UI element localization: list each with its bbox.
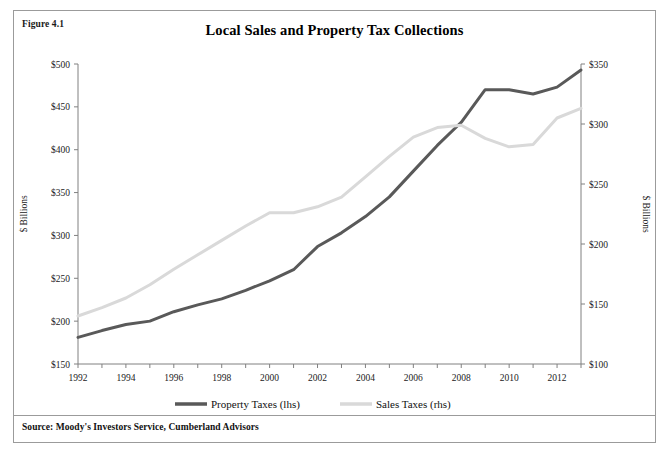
right-axis-title: $ Billions [641, 195, 651, 233]
x-axis-tick-label: 2006 [404, 373, 423, 383]
x-axis-tick-label: 2004 [356, 373, 375, 383]
left-axis-tick-label: $400 [51, 145, 70, 155]
left-axis-tick-label: $300 [51, 231, 70, 241]
right-axis-tick-label: $350 [589, 60, 608, 70]
left-axis-tick-label: $250 [51, 274, 70, 284]
x-axis-tick-label: 1998 [212, 373, 231, 383]
x-axis-tick-label: 1992 [69, 373, 88, 383]
left-axis-tick-label: $350 [51, 188, 70, 198]
series-layer [78, 70, 581, 337]
legend-label: Property Taxes (lhs) [211, 398, 300, 411]
right-axis-tick-label: $150 [589, 300, 608, 310]
right-axis-tick-label: $100 [589, 360, 608, 370]
x-axis-tick-label: 2008 [452, 373, 471, 383]
legend-label: Sales Taxes (rhs) [376, 398, 451, 411]
x-axis-tick-label: 2000 [260, 373, 279, 383]
legend-item-sales-taxes: Sales Taxes (rhs) [340, 398, 451, 411]
x-axis-tick-label: 1994 [116, 373, 135, 383]
left-axis-title: $ Billions [19, 195, 29, 233]
x-axis-tick-label: 1996 [164, 373, 183, 383]
left-axis-tick-label: $450 [51, 102, 70, 112]
x-axis-tick-label: 2010 [500, 373, 519, 383]
left-axis-tick-label: $200 [51, 317, 70, 327]
x-axis-tick-label: 2012 [548, 373, 567, 383]
right-axis-tick-label: $200 [589, 240, 608, 250]
legend-item-property-taxes: Property Taxes (lhs) [175, 398, 300, 411]
left-axis-tick-label: $150 [51, 360, 70, 370]
source-divider [14, 415, 655, 416]
source-note: Source: Moody's Investors Service, Cumbe… [22, 422, 259, 432]
series-line-property-taxes [78, 70, 581, 337]
x-axis-tick-label: 2002 [308, 373, 327, 383]
right-axis-tick-label: $300 [589, 120, 608, 130]
series-line-sales-taxes [78, 108, 581, 316]
axes-layer: $150$200$250$300$350$400$450$500$100$150… [19, 60, 651, 384]
chart-legend: Property Taxes (lhs)Sales Taxes (rhs) [175, 398, 451, 411]
figure-container: Figure 4.1 Local Sales and Property Tax … [0, 0, 669, 453]
left-axis-tick-label: $500 [51, 60, 70, 70]
chart-plot: $150$200$250$300$350$400$450$500$100$150… [0, 0, 669, 453]
right-axis-tick-label: $250 [589, 180, 608, 190]
